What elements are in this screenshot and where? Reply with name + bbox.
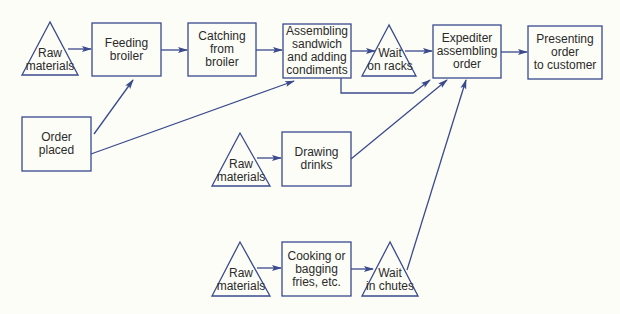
edge-chutes-expediter: [407, 80, 466, 270]
wait-in-chutes-label: Wait in chutes: [362, 266, 418, 294]
wait-on-racks-label: Wait on racks: [364, 46, 416, 74]
edge-drinks-expediter: [351, 80, 447, 159]
feeding-broiler-label: Feeding broiler: [92, 23, 161, 76]
order-placed-label: Order placed: [22, 117, 91, 171]
presenting-order-label: Presenting order to customer: [528, 26, 602, 79]
assembling-sandwich-label: Assembling sandwich and adding condiment…: [283, 24, 351, 78]
raw-materials-1-label: Raw materials: [22, 46, 78, 74]
catching-from-broiler-label: Catching from broiler: [188, 23, 256, 76]
drawing-drinks-label: Drawing drinks: [282, 132, 351, 186]
cooking-fries-label: Cooking or bagging fries, etc.: [282, 242, 351, 296]
raw-materials-2-label: Raw materials: [212, 157, 270, 185]
edge-order-assembling: [91, 81, 294, 154]
expediter-assembling-order-label: Expediter assembling order: [433, 25, 501, 78]
raw-materials-3-label: Raw materials: [212, 266, 270, 294]
edge-order-feeding: [94, 80, 133, 134]
edge-assembling-bypass-expediter: [341, 78, 430, 93]
